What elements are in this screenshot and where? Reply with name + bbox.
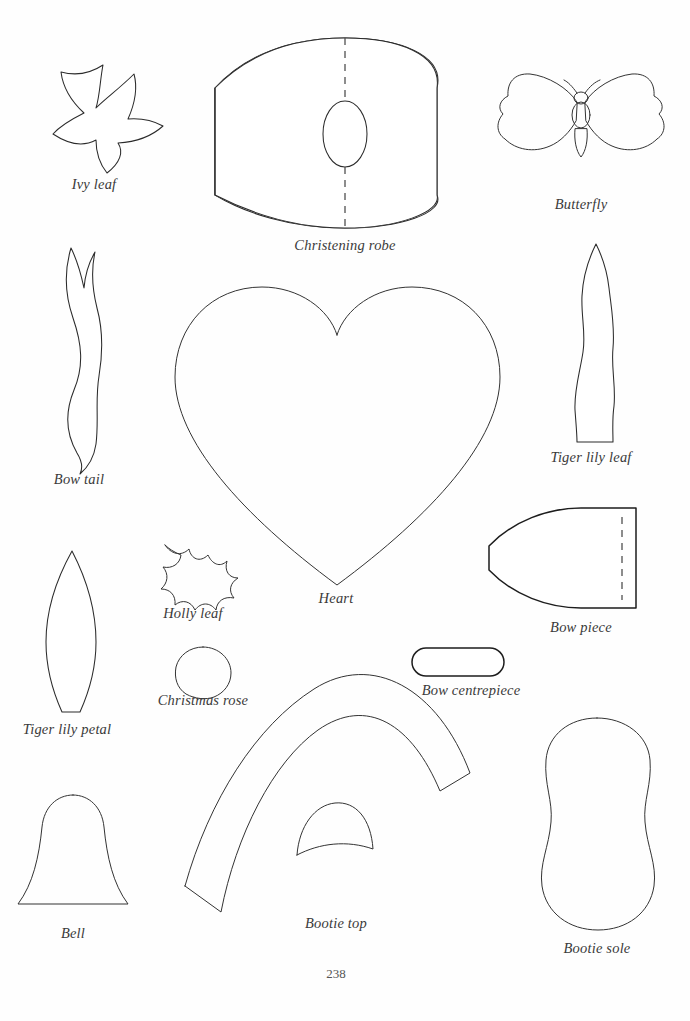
shape-bell (18, 795, 128, 904)
shape-bow-piece (489, 508, 636, 608)
shape-bootie-sole (541, 718, 654, 930)
caption-christmas-rose: Christmas rose (158, 692, 249, 709)
caption-bell: Bell (61, 925, 85, 942)
caption-bow-piece: Bow piece (550, 619, 612, 636)
caption-tiger-lily-leaf: Tiger lily leaf (550, 449, 631, 466)
page-number: 238 (326, 966, 346, 982)
caption-ivy-leaf: Ivy leaf (72, 176, 117, 193)
caption-bootie-top: Bootie top (305, 915, 367, 932)
template-sheet: Ivy leaf Christening robe Butterfly Bow … (0, 0, 690, 1021)
shape-heart (175, 287, 500, 585)
caption-tiger-lily-petal: Tiger lily petal (23, 721, 112, 738)
caption-butterfly: Butterfly (555, 196, 608, 213)
caption-christening-robe: Christening robe (294, 237, 395, 254)
shape-butterfly (498, 74, 664, 157)
caption-holly-leaf: Holly leaf (163, 605, 223, 622)
shape-christmas-rose (175, 647, 231, 699)
caption-bootie-sole: Bootie sole (563, 940, 630, 957)
shape-bow-centrepiece (412, 648, 504, 676)
shape-bow-tail (66, 248, 101, 474)
shape-ivy-leaf (53, 65, 163, 173)
caption-heart: Heart (319, 590, 354, 607)
shape-christening-robe (215, 38, 438, 228)
caption-bow-tail: Bow tail (54, 471, 104, 488)
shape-tiger-lily-petal (46, 551, 96, 712)
shape-tiger-lily-leaf (575, 244, 615, 442)
shape-bootie-top (185, 675, 470, 912)
template-shapes-canvas (0, 0, 690, 1021)
shape-holly-leaf (161, 545, 238, 610)
caption-bow-centrepiece: Bow centrepiece (422, 682, 521, 699)
